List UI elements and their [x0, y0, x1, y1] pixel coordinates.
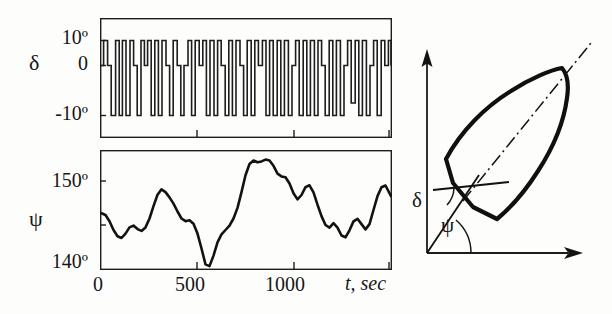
rudder-angle-chart: [100, 18, 392, 138]
heading-plot-frame: [101, 151, 392, 270]
heading-xtick-1000: 1000: [265, 274, 305, 294]
rudder-ytick-plus10: 10º: [20, 27, 88, 47]
heading-angle-chart: [100, 150, 392, 270]
rudder-angle-trace: [101, 41, 391, 116]
psi-angle-label: ψ: [441, 215, 454, 236]
rudder-ytick-zero: 0: [20, 53, 88, 73]
vertical-axis: [422, 49, 433, 253]
heading-xaxis-title: t, sec: [345, 273, 386, 293]
rudder-ytick-minus10: -10º: [12, 103, 88, 123]
ship-diagram-svg: [405, 35, 605, 275]
rudder-chart-svg: [100, 18, 392, 138]
heading-ytick-140: 140º: [6, 251, 88, 271]
psi-angle-arc: [456, 220, 471, 253]
delta-angle-label: δ: [412, 190, 422, 211]
heading-x-ticks: [197, 262, 389, 269]
rudder-x-ticks: [197, 130, 389, 137]
heading-chart-svg: [100, 150, 392, 270]
heading-xtick-0: 0: [93, 274, 103, 294]
heading-axis-symbol: ψ: [29, 208, 43, 230]
heading-ytick-150: 150º: [6, 170, 88, 190]
horizontal-axis: [427, 247, 583, 259]
delta-angle-arc: [447, 188, 454, 205]
ship-centerline: [463, 43, 591, 201]
rudder-plot-frame: [101, 19, 392, 138]
heading-angle-trace: [102, 160, 392, 267]
heading-xtick-500: 500: [175, 274, 205, 294]
figure-root: δ 10º 0 -10º ψ 150º 140º 0 500 1000 t, s…: [0, 0, 612, 314]
ship-geometry-diagram: [405, 35, 605, 275]
